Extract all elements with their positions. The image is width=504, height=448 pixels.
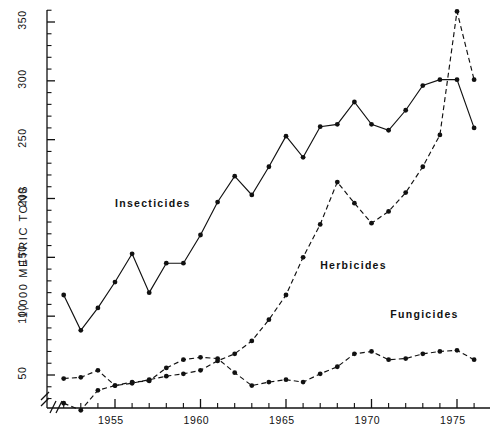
data-point <box>61 376 66 381</box>
y-tick-label: 50 <box>16 356 28 390</box>
data-point <box>198 368 203 373</box>
data-point <box>78 328 83 333</box>
data-point <box>335 180 340 185</box>
data-point <box>472 77 477 82</box>
data-point <box>318 124 323 129</box>
series-line <box>64 11 474 410</box>
data-point <box>284 134 289 139</box>
data-point <box>198 355 203 360</box>
data-point <box>232 351 237 356</box>
data-point <box>113 280 118 285</box>
data-point <box>96 306 101 311</box>
data-point <box>301 155 306 160</box>
series-label-herbicides: Herbicides <box>320 259 387 271</box>
y-tick-label: 300 <box>16 62 28 96</box>
data-point <box>164 261 169 266</box>
data-point <box>267 317 272 322</box>
data-point <box>164 366 169 371</box>
data-point <box>181 357 186 362</box>
y-tick-label: 350 <box>16 3 28 37</box>
data-point <box>181 261 186 266</box>
data-point <box>318 222 323 227</box>
data-point <box>267 380 272 385</box>
y-tick-label: 250 <box>16 121 28 155</box>
data-point <box>420 351 425 356</box>
x-tick-label: 1955 <box>98 414 124 426</box>
data-point <box>318 371 323 376</box>
pesticide-usage-chart: 1,000 METRIC TONS 5010015020025030035019… <box>0 0 504 448</box>
data-point <box>455 77 460 82</box>
data-point <box>61 401 66 406</box>
data-point <box>181 371 186 376</box>
series-herbicides <box>61 9 476 413</box>
series-label-insecticides: Insecticides <box>115 197 191 209</box>
data-point <box>113 383 118 388</box>
data-point <box>369 122 374 127</box>
x-tick-label: 1975 <box>440 414 466 426</box>
data-point <box>78 375 83 380</box>
series-label-fungicides: Fungicides <box>390 308 458 320</box>
data-point <box>215 200 220 205</box>
data-point <box>369 221 374 226</box>
y-tick-label: 150 <box>16 238 28 272</box>
data-point <box>284 293 289 298</box>
data-point <box>147 378 152 383</box>
data-point <box>130 380 135 385</box>
y-tick-label: 200 <box>16 180 28 214</box>
y-tick-label: 100 <box>16 297 28 331</box>
data-point <box>215 356 220 361</box>
data-point <box>130 251 135 256</box>
data-point <box>198 233 203 238</box>
data-point <box>249 338 254 343</box>
data-point <box>164 374 169 379</box>
data-point <box>352 100 357 105</box>
data-point <box>96 388 101 393</box>
data-point <box>352 201 357 206</box>
data-point <box>232 174 237 179</box>
data-point <box>438 349 443 354</box>
data-point <box>438 77 443 82</box>
data-point <box>232 370 237 375</box>
data-point <box>284 377 289 382</box>
data-point <box>472 357 477 362</box>
data-point <box>301 380 306 385</box>
data-point <box>420 83 425 88</box>
data-point <box>147 290 152 295</box>
data-point <box>335 364 340 369</box>
x-tick-label: 1970 <box>355 414 381 426</box>
data-point <box>267 164 272 169</box>
chart-plot-area <box>0 0 504 448</box>
series-fungicides <box>61 348 476 388</box>
data-point <box>335 122 340 127</box>
data-point <box>403 190 408 195</box>
data-point <box>352 351 357 356</box>
data-point <box>420 164 425 169</box>
data-point <box>96 368 101 373</box>
data-point <box>386 357 391 362</box>
data-point <box>455 348 460 353</box>
data-point <box>61 293 66 298</box>
data-point <box>386 128 391 133</box>
data-point <box>438 133 443 138</box>
axis-break-icon <box>41 392 62 413</box>
data-point <box>472 126 477 131</box>
data-point <box>249 193 254 198</box>
data-point <box>386 209 391 214</box>
data-point <box>403 108 408 113</box>
x-tick-label: 1965 <box>269 414 295 426</box>
data-point <box>455 9 460 14</box>
data-point <box>301 255 306 260</box>
data-point <box>78 408 83 413</box>
data-point <box>403 356 408 361</box>
data-point <box>369 349 374 354</box>
data-point <box>249 383 254 388</box>
x-tick-label: 1960 <box>184 414 210 426</box>
